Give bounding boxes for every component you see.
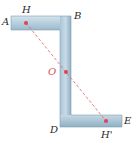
label-d: D: [50, 125, 58, 135]
label-h-prime: H': [101, 130, 112, 140]
label-o: O: [48, 67, 56, 77]
point-h-prime: [104, 119, 108, 123]
label-h: H: [22, 5, 31, 15]
label-e: E: [124, 116, 131, 126]
point-h: [24, 21, 28, 25]
label-b: B: [74, 11, 81, 21]
z-section-diagram: A H B O D E H': [0, 0, 136, 144]
label-a: A: [2, 17, 9, 27]
z-section-shape: [0, 0, 136, 144]
point-o: [64, 70, 68, 74]
